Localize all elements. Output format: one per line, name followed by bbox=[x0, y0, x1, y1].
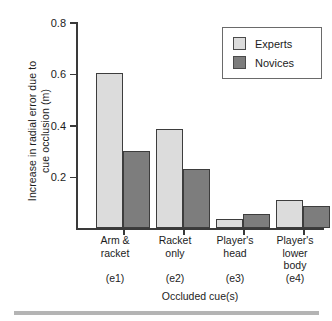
bottom-divider bbox=[14, 311, 319, 315]
y-tick-label-0.4: 0.4 bbox=[51, 120, 66, 132]
legend-swatch-experts-icon bbox=[233, 37, 246, 50]
legend-label-novices: Novices bbox=[255, 57, 294, 69]
y-axis-line bbox=[76, 22, 78, 229]
bar-novices-e4 bbox=[303, 206, 330, 228]
legend: Experts Novices bbox=[222, 27, 322, 79]
bar-experts-e2 bbox=[156, 129, 183, 229]
x-category-code-e2: (e2) bbox=[153, 272, 197, 284]
x-category-code-e1: (e1) bbox=[93, 272, 137, 284]
y-tick-0.2: 0.2 bbox=[70, 177, 76, 179]
bar-novices-e1 bbox=[123, 151, 150, 229]
bar-experts-e4 bbox=[276, 200, 303, 229]
y-tick-0.8: 0.8 bbox=[70, 22, 76, 24]
legend-swatch-novices-icon bbox=[233, 56, 246, 69]
bar-novices-e3 bbox=[243, 214, 270, 228]
x-axis-line bbox=[76, 228, 324, 230]
bar-novices-e2 bbox=[183, 169, 210, 229]
legend-label-experts: Experts bbox=[255, 38, 292, 50]
y-tick-label-0.6: 0.6 bbox=[51, 68, 66, 80]
y-tick-0.6: 0.6 bbox=[70, 74, 76, 76]
x-category-label-e3: Player's head bbox=[205, 234, 265, 259]
legend-item-novices: Novices bbox=[233, 53, 321, 72]
x-axis-title: Occluded cue(s) bbox=[76, 290, 324, 302]
x-category-code-e4: (e4) bbox=[273, 272, 317, 284]
bar-experts-e3 bbox=[216, 219, 243, 228]
legend-item-experts: Experts bbox=[233, 34, 321, 53]
x-category-code-e3: (e3) bbox=[213, 272, 257, 284]
y-axis-title: Increase in radial error due to cue occl… bbox=[26, 31, 52, 231]
y-tick-label-0.2: 0.2 bbox=[51, 171, 66, 183]
bar-experts-e1 bbox=[96, 73, 123, 228]
x-category-label-e1: Arm & racket bbox=[85, 234, 145, 259]
x-category-label-e2: Racket only bbox=[145, 234, 205, 259]
x-category-label-e4: Player's lower body bbox=[265, 234, 325, 272]
y-tick-0.4: 0.4 bbox=[70, 125, 76, 127]
y-tick-label-0.8: 0.8 bbox=[51, 17, 66, 29]
figure-canvas: Increase in radial error due to cue occl… bbox=[0, 0, 332, 321]
